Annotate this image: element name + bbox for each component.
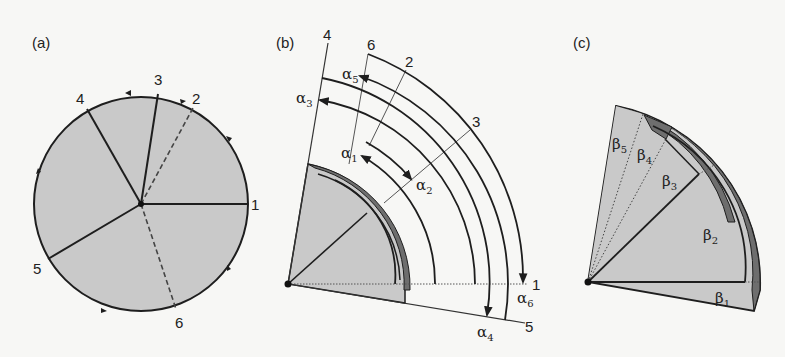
panel-a: (a) 1 2 3 4 5 6 — [32, 34, 259, 331]
alpha-2-label: α2 — [416, 176, 433, 196]
panel-b: (b) 4 6 2 3 1 5 α1 α2 α3 α4 α5 — [276, 26, 540, 343]
point-label-5: 5 — [33, 260, 41, 277]
ray-label-5: 5 — [525, 318, 533, 335]
point-label-3: 3 — [154, 71, 162, 88]
arc-alpha-2 — [366, 142, 411, 179]
ray-label-1: 1 — [532, 276, 540, 293]
panel-c: (c) β1 β2 β3 β4 β5 — [573, 34, 760, 311]
point-label-1: 1 — [251, 196, 259, 213]
alpha-3-label: α3 — [296, 89, 313, 109]
ray-label-6: 6 — [367, 36, 375, 53]
ray-label-2: 2 — [405, 53, 413, 70]
panel-c-label: (c) — [573, 34, 591, 51]
alpha-5-label: α5 — [342, 65, 359, 85]
ray-label-4: 4 — [323, 26, 331, 43]
panel-b-label: (b) — [276, 34, 294, 51]
figure-canvas: (a) 1 2 3 4 5 6 (b) — [0, 0, 785, 357]
origin-dot-b — [285, 281, 292, 288]
ray-label-3: 3 — [472, 113, 480, 130]
origin-dot-c — [585, 279, 592, 286]
panel-a-label: (a) — [32, 34, 50, 51]
center-dot — [138, 201, 144, 207]
point-label-6: 6 — [175, 314, 183, 331]
point-label-4: 4 — [76, 90, 84, 107]
point-label-2: 2 — [192, 90, 200, 107]
alpha-1-label: α1 — [341, 144, 358, 164]
alpha-4-label: α4 — [477, 323, 494, 343]
